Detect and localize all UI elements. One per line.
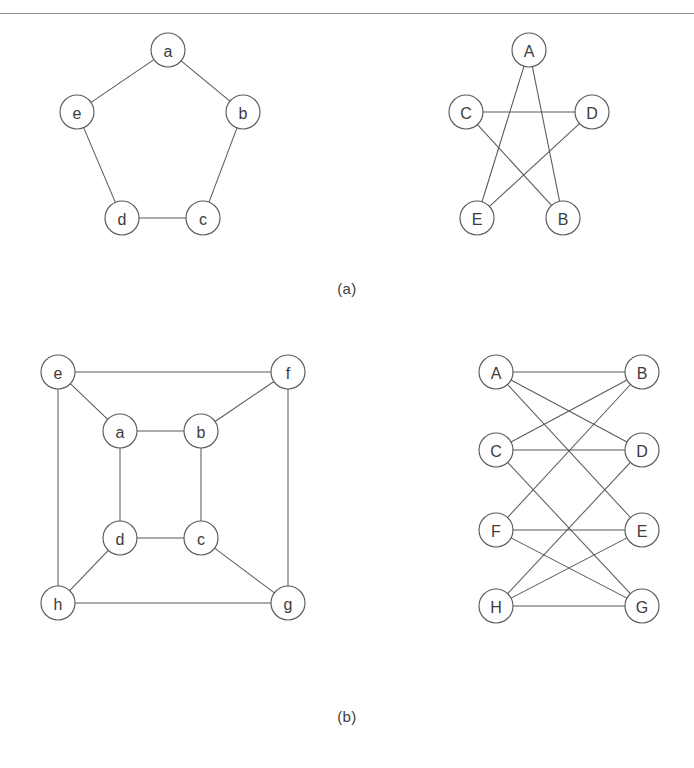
node-label: B	[558, 211, 569, 228]
node-label: H	[490, 599, 502, 616]
figure-b: abcdefgh ABCDFEHG (b)	[0, 340, 694, 760]
graph-pentagram-star: ABCDE	[0, 22, 694, 262]
header-divider-rule	[0, 13, 694, 14]
figure-b-caption: (b)	[0, 708, 694, 725]
node-label: C	[490, 443, 502, 460]
graph-node: E	[625, 513, 659, 547]
graph-node: B	[625, 355, 659, 389]
node-label: A	[491, 365, 502, 382]
graph-node: A	[479, 355, 513, 389]
graph-node: D	[575, 95, 609, 129]
node-label: E	[637, 523, 648, 540]
figure-a: abcde ABCDE (a)	[0, 22, 694, 312]
node-label: D	[636, 443, 648, 460]
node-label: E	[472, 211, 483, 228]
graph-edge	[490, 124, 580, 207]
edge-layer	[477, 66, 579, 206]
edge-layer	[508, 372, 631, 606]
graph-cube-bipartite-ladder: ABCDFEHG	[0, 340, 694, 660]
node-label: G	[636, 599, 648, 616]
node-label: F	[491, 523, 501, 540]
figure-page: abcde ABCDE (a) abcdefgh ABCDFEHG (b)	[0, 0, 694, 768]
graph-node: C	[479, 433, 513, 467]
graph-node: A	[512, 33, 546, 67]
graph-node: H	[479, 589, 513, 623]
graph-edge	[532, 67, 559, 202]
graph-node: C	[449, 95, 483, 129]
node-label: A	[524, 43, 535, 60]
figure-a-caption: (a)	[0, 280, 694, 297]
graph-node: F	[479, 513, 513, 547]
graph-edge	[477, 125, 551, 206]
graph-node: B	[546, 201, 580, 235]
graph-edge	[482, 66, 524, 202]
node-label: C	[460, 105, 472, 122]
graph-node: G	[625, 589, 659, 623]
node-label: D	[586, 105, 598, 122]
node-label: B	[637, 365, 648, 382]
graph-node: D	[625, 433, 659, 467]
graph-node: E	[460, 201, 494, 235]
